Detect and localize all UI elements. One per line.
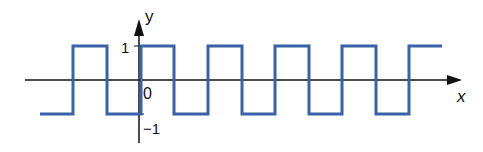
y-axis-arrow-icon xyxy=(134,19,144,36)
y-tick-low-label: −1 xyxy=(143,120,160,137)
y-tick-high-label: 1 xyxy=(121,39,129,56)
square-wave-diagram: y x 1 0 −1 xyxy=(0,0,483,152)
y-axis-label: y xyxy=(145,7,154,26)
x-axis-label: x xyxy=(456,87,466,106)
origin-label: 0 xyxy=(143,85,152,102)
x-axis-arrow-icon xyxy=(447,75,462,85)
